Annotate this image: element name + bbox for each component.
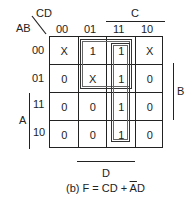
- a-label: A: [19, 115, 26, 126]
- row-header-10: 10: [33, 127, 45, 138]
- caption: (b) F = CD + AD: [66, 182, 145, 194]
- row-header-11: 11: [33, 99, 44, 110]
- row-header-00: 00: [32, 45, 44, 56]
- cell-10-10: 0: [136, 121, 165, 149]
- corner-diagonal: [30, 14, 50, 36]
- cell-00-10: X: [136, 37, 165, 65]
- c-bar: [106, 21, 165, 22]
- b-label: B: [177, 86, 184, 97]
- cell-10-01: 0: [79, 121, 108, 149]
- row-header-01: 01: [32, 73, 44, 84]
- caption-abar: A: [130, 182, 137, 194]
- c-label: C: [131, 8, 139, 19]
- col-header-01: 01: [84, 24, 96, 35]
- col-header-00: 00: [56, 24, 68, 35]
- cell-11-10: 0: [136, 93, 165, 121]
- cell-11-00: 0: [50, 93, 79, 121]
- d-label: D: [102, 168, 110, 179]
- cell-11-01: 0: [79, 93, 108, 121]
- col-header-11: 11: [113, 24, 124, 35]
- kmap-grid: X 1 1 X 0 X 1 0 0 0 1 0 0 0 1 0: [49, 36, 163, 148]
- caption-suffix: D: [137, 182, 145, 194]
- cell-10-00: 0: [50, 121, 79, 149]
- group-loop-cd-inner: [113, 45, 128, 140]
- b-bar: [173, 63, 174, 120]
- col-header-10: 10: [141, 24, 153, 35]
- cell-00-00: X: [50, 37, 79, 65]
- cell-01-00: 0: [50, 65, 79, 93]
- row-var-label: AB: [16, 23, 31, 34]
- d-bar: [77, 161, 135, 162]
- a-bar: [29, 93, 30, 149]
- cell-01-10: 0: [136, 65, 165, 93]
- caption-prefix: (b) F = CD +: [66, 182, 130, 194]
